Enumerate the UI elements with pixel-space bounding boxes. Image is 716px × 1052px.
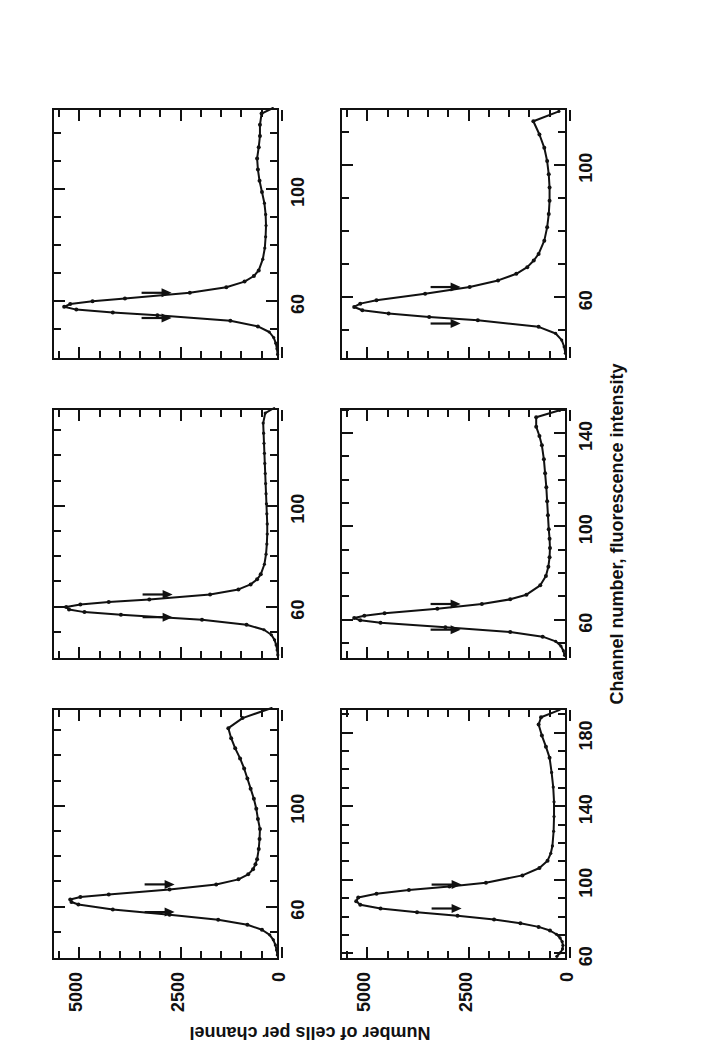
histogram-curve [52,408,279,660]
histogram-curve [340,408,567,660]
panel-rabbit [340,708,567,960]
figure-canvas: Channel number, fluorescence intensity N… [0,0,716,1052]
x-tick-label: 100 [288,494,309,524]
panel-mouse [52,708,279,960]
x-tick-label: 100 [288,794,309,824]
y-tick-right [281,110,283,121]
y-tick [569,647,571,658]
y-tick-right [281,410,283,421]
y-tick-label: 5000 [354,972,375,1052]
x-tick-label: 60 [288,600,309,620]
y-tick-label: 0 [557,972,578,1052]
histogram-curve [340,108,567,360]
panel-hamster [52,108,279,360]
y-tick [569,947,571,958]
y-tick-label: 2500 [455,972,476,1052]
y-tick [281,947,283,958]
y-tick [569,347,571,358]
y-axis-title: Number of cells per channel [189,1022,430,1043]
x-tick-label: 100 [576,153,597,183]
y-tick-right [281,710,283,721]
panel-stallion [340,108,567,360]
y-tick [281,647,283,658]
x-tick-label: 100 [288,177,309,207]
x-tick-label: 60 [288,294,309,314]
y-tick [281,347,283,358]
x-tick-label: 140 [576,794,597,824]
panel-bull [340,408,567,660]
histogram-curve [52,708,279,960]
y-tick-right [569,110,571,121]
histogram-curve [340,708,567,960]
rotated-figure-stage: Channel number, fluorescence intensity N… [0,0,716,1052]
x-tick-label: 100 [576,868,597,898]
x-tick-label: 100 [576,514,597,544]
panel-boar [52,408,279,660]
y-tick-right [569,710,571,721]
x-tick-label: 60 [288,900,309,920]
x-tick-label: 60 [576,290,597,310]
x-tick-label: 140 [576,421,597,451]
x-axis-title: Channel number, fluorescence intensity [607,363,628,704]
x-tick-label: 60 [576,613,597,633]
y-tick-right [569,410,571,421]
x-tick-label: 60 [576,946,597,966]
y-tick-label: 5000 [66,972,87,1052]
y-tick-label: 0 [269,972,290,1052]
histogram-curve [52,108,279,360]
x-tick-label: 180 [576,721,597,751]
y-tick-label: 2500 [167,972,188,1052]
